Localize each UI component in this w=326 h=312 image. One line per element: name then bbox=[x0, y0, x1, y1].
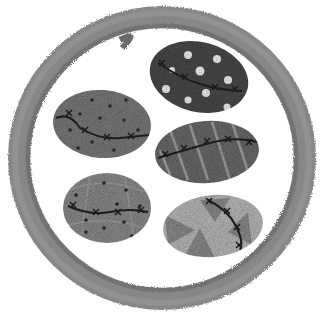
stone-dark-dots bbox=[49, 85, 156, 164]
illustration: Grayscale watercolor-style illustration … bbox=[0, 0, 326, 312]
stone-stripes bbox=[151, 115, 263, 188]
ring-with-stones bbox=[0, 0, 326, 312]
stone-dots-lines bbox=[61, 171, 153, 245]
